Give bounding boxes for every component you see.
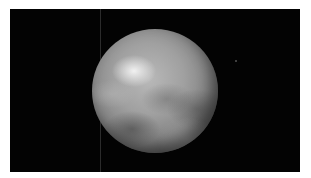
planet-sphere — [92, 29, 218, 153]
distant-speck — [235, 60, 237, 62]
image-frame — [10, 9, 300, 172]
